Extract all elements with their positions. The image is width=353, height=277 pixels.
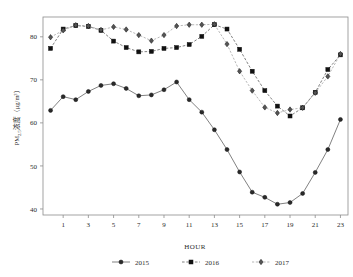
data-point-2015-12 [200,110,204,114]
data-point-2015-1 [61,95,65,99]
x-tick-label: 5 [112,221,116,229]
legend-label-2016: 2016 [205,259,220,267]
y-axis-label-prefix: PM [13,136,20,146]
data-point-2016-6 [124,46,128,50]
y-tick-label: 80 [30,33,38,41]
data-point-2015-16 [250,190,254,194]
data-point-2015-15 [238,170,242,174]
data-point-2016-15 [238,47,242,51]
data-point-2015-17 [263,195,267,199]
data-point-2015-13 [212,128,216,132]
x-tick-label: 15 [236,221,244,229]
data-point-2016-7 [137,50,141,54]
y-tick-label: 50 [30,163,38,171]
data-point-2015-4 [99,83,103,87]
data-point-2016-19 [288,114,292,118]
x-axis-label: HOUR [184,243,205,251]
y-tick-label: 60 [30,119,38,127]
y-tick-label: 40 [30,206,38,214]
data-point-2015-8 [149,93,153,97]
data-point-2016-0 [49,46,53,50]
data-point-2015-22 [326,148,330,152]
data-point-2016-9 [162,46,166,50]
data-point-2015-3 [86,89,90,93]
data-point-2015-11 [187,98,191,102]
x-tick-label: 9 [162,221,166,229]
data-point-2016-12 [200,34,204,38]
x-tick-label: 13 [211,221,219,229]
x-tick-label: 1 [61,221,65,229]
x-tick-label: 7 [137,221,141,229]
legend-label-2017: 2017 [275,259,290,267]
x-tick-label: 3 [87,221,91,229]
pm25-hourly-line-chart: 4050607080 1357911131517192123 HOUR PM2.… [0,0,353,277]
legend-marker-2016 [189,260,193,264]
data-point-2015-0 [49,108,53,112]
legend-label-2015: 2015 [135,259,150,267]
y-axis-label-suffix: 浓度（μg/m³） [12,86,21,130]
data-point-2015-5 [112,82,116,86]
chart-figure: 4050607080 1357911131517192123 HOUR PM2.… [0,0,353,277]
data-point-2016-10 [175,46,179,50]
x-tick-label: 19 [287,221,295,229]
x-tick-label: 11 [186,221,193,229]
figure-background [0,0,353,277]
data-point-2016-18 [275,104,279,108]
data-point-2015-19 [288,201,292,205]
data-point-2016-16 [250,69,254,73]
legend-marker-2015 [119,260,123,264]
data-point-2016-8 [149,49,153,53]
data-point-2015-9 [162,88,166,92]
data-point-2015-20 [301,191,305,195]
data-point-2015-10 [175,80,179,84]
data-point-2015-23 [338,117,342,121]
data-point-2015-18 [275,202,279,206]
x-tick-label: 17 [261,221,269,229]
data-point-2015-6 [124,86,128,90]
data-point-2016-14 [225,27,229,31]
data-point-2016-11 [187,43,191,47]
y-tick-label: 70 [30,76,38,84]
data-point-2015-14 [225,148,229,152]
x-tick-label: 23 [337,221,345,229]
x-tick-label: 21 [312,221,320,229]
data-point-2015-21 [313,170,317,174]
data-point-2016-22 [326,68,330,72]
data-point-2015-2 [74,98,78,102]
data-point-2016-5 [112,39,116,43]
data-point-2016-17 [263,89,267,93]
data-point-2015-7 [137,94,141,98]
